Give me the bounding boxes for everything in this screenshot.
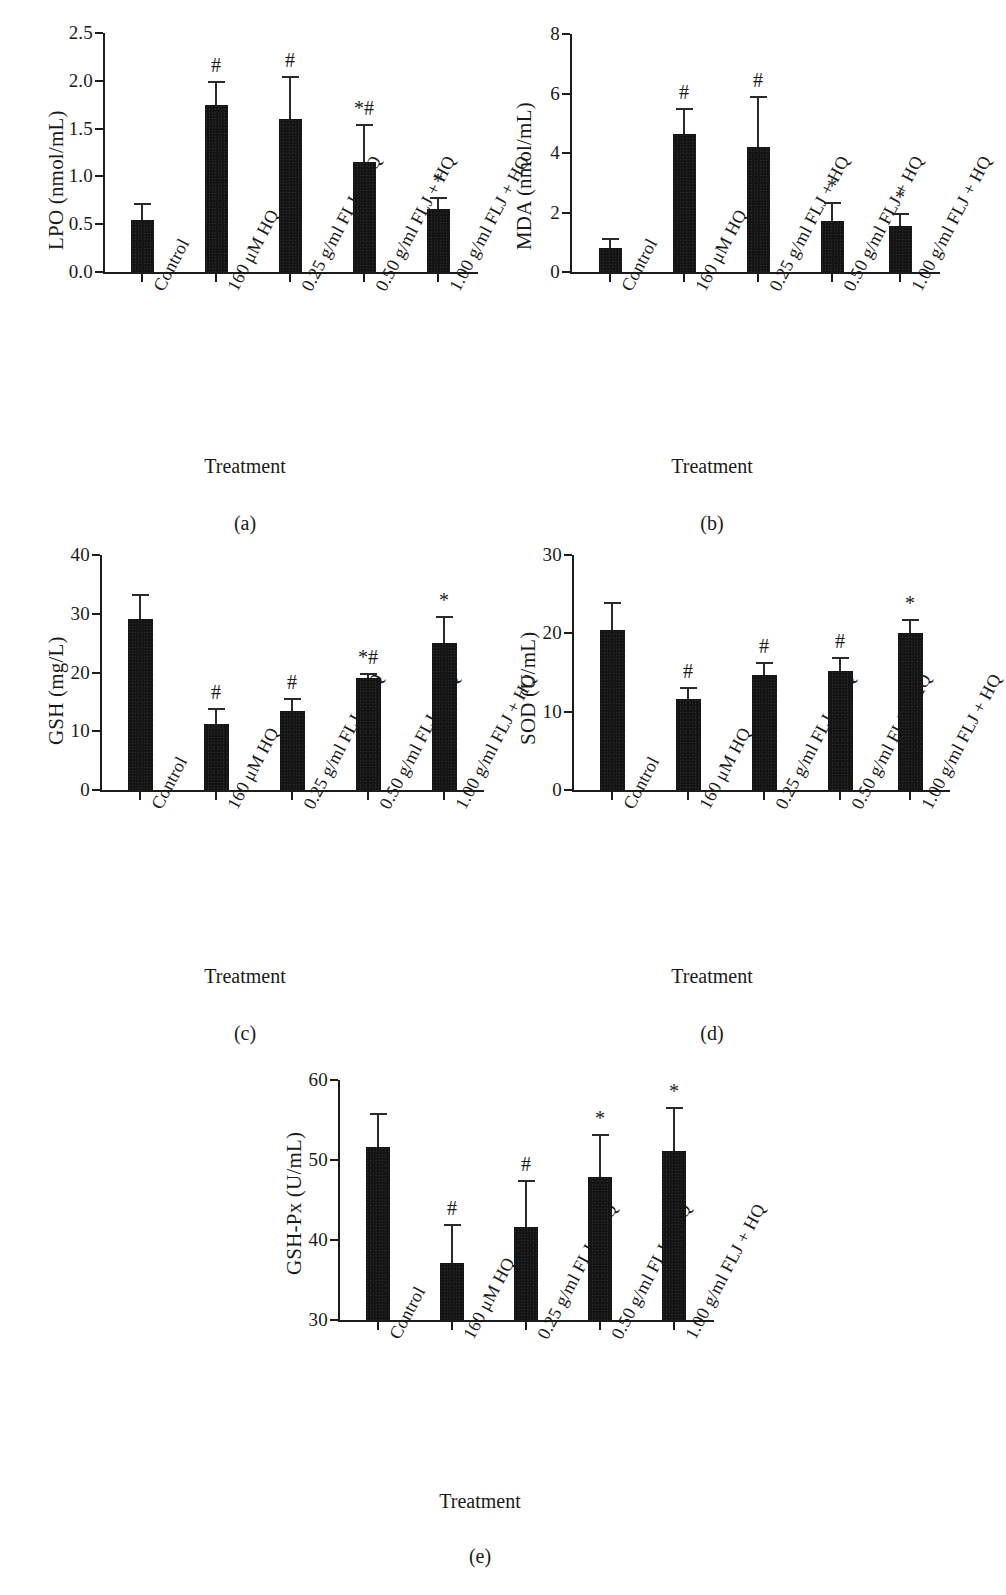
y-axis-line — [338, 1080, 340, 1322]
significance-marker: # — [447, 1198, 457, 1218]
error-bar-cap — [666, 1107, 683, 1109]
bar — [366, 1147, 390, 1320]
error-bar — [662, 1107, 686, 1151]
error-bar — [514, 1180, 538, 1227]
error-bar-cap — [370, 1113, 387, 1115]
x-axis-tick — [451, 1322, 453, 1330]
x-axis-title: Treatment — [439, 1490, 520, 1513]
error-bar-stem — [599, 1134, 601, 1176]
error-bar — [440, 1224, 464, 1263]
x-axis-tick — [673, 1322, 675, 1330]
bar — [588, 1177, 612, 1320]
x-axis-tick — [599, 1322, 601, 1330]
significance-marker: * — [669, 1081, 679, 1101]
error-bar-stem — [673, 1107, 675, 1151]
y-axis-tick — [330, 1239, 338, 1241]
y-axis-tick — [330, 1159, 338, 1161]
error-bar-cap — [444, 1224, 461, 1226]
significance-marker: * — [595, 1108, 605, 1128]
significance-marker: # — [521, 1154, 531, 1174]
y-axis-title: GSH-Px (U/mL) — [282, 1132, 307, 1275]
bar — [440, 1263, 464, 1320]
x-axis-category-label: 1.00 g/ml FLJ + HQ — [681, 1200, 770, 1343]
error-bar-stem — [377, 1113, 379, 1147]
error-bar — [366, 1113, 390, 1147]
y-axis-tick-label: 30 — [272, 1310, 328, 1329]
bar — [514, 1227, 538, 1320]
error-bar-stem — [451, 1224, 453, 1263]
x-axis-tick — [525, 1322, 527, 1330]
x-axis-category-label: 160 μM HQ — [459, 1254, 520, 1343]
x-axis-tick — [377, 1322, 379, 1330]
y-axis-tick — [330, 1319, 338, 1321]
error-bar-stem — [525, 1180, 527, 1227]
error-bar-cap — [518, 1180, 535, 1182]
y-axis-tick — [330, 1079, 338, 1081]
bar — [662, 1151, 686, 1320]
y-axis-tick-label: 60 — [272, 1070, 328, 1089]
error-bar-cap — [592, 1134, 609, 1136]
error-bar — [588, 1134, 612, 1176]
panel-caption: (e) — [469, 1545, 491, 1568]
x-axis-category-label: Control — [385, 1283, 430, 1343]
